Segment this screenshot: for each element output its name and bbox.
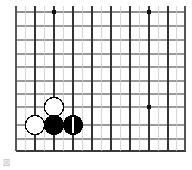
go-board-diagram: 図 [0,0,192,170]
go-board-canvas[interactable] [0,0,192,170]
star-point-hoshi-center-right [147,105,152,110]
black-stone-a[interactable] [44,115,63,134]
move-number-one-glyph [72,117,74,133]
diagram-caption: 図 [3,158,11,167]
white-stone-a[interactable] [44,97,63,116]
star-point-hoshi-upper-left [52,10,57,15]
star-point-hoshi-upper-right [147,10,152,15]
white-stone-b[interactable] [25,115,44,134]
black-move-one[interactable] [63,115,82,134]
